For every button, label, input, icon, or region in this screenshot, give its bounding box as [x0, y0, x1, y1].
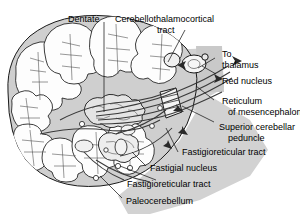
label-to-thalamus-line1: To — [222, 49, 232, 60]
label-cerebellothalamocortical-line2: tract — [157, 25, 175, 36]
label-superior-peduncle-line1: Superior cerebellar — [219, 122, 295, 133]
anatomical-figure: Dentate Cerebellothalamocortical tract T… — [0, 0, 300, 220]
label-to-thalamus-line2: thalamus — [222, 60, 259, 71]
label-superior-peduncle-line2: peduncle — [228, 133, 265, 144]
dentate-nucleus — [84, 94, 145, 127]
label-red-nucleus: Red nucleus — [222, 76, 272, 87]
label-fastigial-nucleus: Fastigial nucleus — [150, 163, 217, 174]
label-dentate: Dentate — [68, 14, 100, 25]
label-paleocerebellum: Paleocerebellum — [126, 196, 193, 207]
label-cerebellothalamocortical-line1: Cerebellothalamocortical — [115, 14, 214, 25]
label-reticulum-line2: of mesencephalon — [228, 107, 300, 118]
label-fastigioreticular-tract-upper: Fastigioreticular tract — [182, 147, 266, 158]
label-reticulum-line1: Reticulum — [222, 96, 262, 107]
label-fastigioreticular-tract-lower: Fastigioreticular tract — [127, 179, 211, 190]
